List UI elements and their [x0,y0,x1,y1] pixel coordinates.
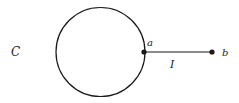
label-segment-i: I [169,58,175,71]
point-b [209,49,214,54]
diagram: C a b I [0,0,239,103]
label-point-a: a [147,37,153,48]
point-a [141,49,146,54]
label-point-b: b [222,47,228,58]
circle [56,8,145,97]
label-region-c: C [11,45,20,59]
